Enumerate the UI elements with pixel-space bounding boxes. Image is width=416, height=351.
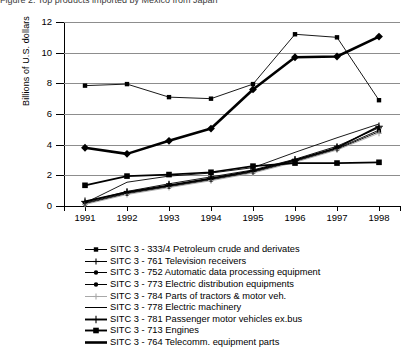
legend-key-icon xyxy=(84,337,108,348)
series-marker xyxy=(208,169,214,175)
series-marker xyxy=(335,35,339,39)
series-marker xyxy=(292,160,298,166)
series-marker xyxy=(377,98,381,102)
series-line xyxy=(85,34,379,100)
series-marker xyxy=(209,96,213,100)
legend-key-icon xyxy=(84,314,108,325)
series-marker xyxy=(165,137,173,145)
series-marker xyxy=(125,82,129,86)
legend-key-icon xyxy=(84,267,108,278)
legend-key-icon xyxy=(84,244,108,255)
legend-item[interactable]: SITC 3 - 713 Engines xyxy=(84,325,414,337)
series-9 xyxy=(81,33,383,158)
series-marker xyxy=(167,95,171,99)
legend-item[interactable]: SITC 3 - 781 Passenger motor vehicles ex… xyxy=(84,314,414,326)
legend-key-icon xyxy=(84,291,108,302)
legend-item[interactable]: SITC 3 - 761 Television receivers xyxy=(84,256,414,268)
series-1 xyxy=(83,32,381,102)
legend-item[interactable]: SITC 3 - 778 Electric machinery xyxy=(84,302,414,314)
legend-label: SITC 3 - 764 Telecomm. equipment parts xyxy=(110,337,279,348)
chart-legend: SITC 3 - 333/4 Petroleum crude and deriv… xyxy=(84,244,414,348)
legend-item[interactable]: SITC 3 - 764 Telecomm. equipment parts xyxy=(84,337,414,349)
legend-key-icon xyxy=(84,256,108,267)
series-marker xyxy=(250,163,256,169)
series-marker xyxy=(82,183,88,189)
series-line xyxy=(85,37,379,154)
series-marker xyxy=(124,173,130,179)
legend-label: SITC 3 - 713 Engines xyxy=(110,325,199,336)
legend-item[interactable]: SITC 3 - 333/4 Petroleum crude and deriv… xyxy=(84,244,414,256)
legend-label: SITC 3 - 784 Parts of tractors & motor v… xyxy=(110,291,286,302)
chart-figure: Figure 2. Top products imported by Mexic… xyxy=(0,0,416,351)
series-marker xyxy=(83,83,87,87)
legend-label: SITC 3 - 773 Electric distribution equip… xyxy=(110,279,294,290)
series-marker xyxy=(334,160,340,166)
legend-label: SITC 3 - 333/4 Petroleum crude and deriv… xyxy=(110,244,300,255)
legend-key-icon xyxy=(84,325,108,336)
legend-label: SITC 3 - 781 Passenger motor vehicles ex… xyxy=(110,314,302,325)
series-marker xyxy=(293,32,297,36)
legend-label: SITC 3 - 778 Electric machinery xyxy=(110,302,241,313)
series-marker xyxy=(123,150,131,158)
series-marker xyxy=(376,160,382,166)
legend-key-icon xyxy=(84,279,108,290)
legend-item[interactable]: SITC 3 - 752 Automatic data processing e… xyxy=(84,267,414,279)
legend-label: SITC 3 - 761 Television receivers xyxy=(110,256,246,267)
series-marker xyxy=(81,144,89,152)
legend-key-icon xyxy=(84,302,108,313)
legend-label: SITC 3 - 752 Automatic data processing e… xyxy=(110,267,320,278)
legend-item[interactable]: SITC 3 - 784 Parts of tractors & motor v… xyxy=(84,290,414,302)
series-marker xyxy=(166,172,172,178)
legend-item[interactable]: SITC 3 - 773 Electric distribution equip… xyxy=(84,279,414,291)
